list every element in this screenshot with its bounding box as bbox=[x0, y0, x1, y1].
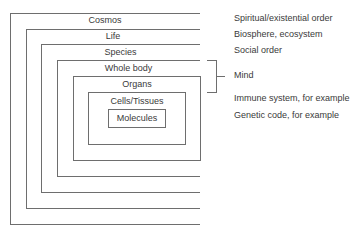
annotation-social: Social order bbox=[234, 45, 282, 56]
annotation-immune: Immune system, for example bbox=[234, 93, 350, 104]
annotation-biosphere: Biosphere, ecosystem bbox=[234, 29, 323, 40]
level-label-whole-body: Whole body bbox=[57, 63, 200, 74]
level-label-life: Life bbox=[26, 31, 200, 42]
level-molecules: Molecules bbox=[108, 109, 166, 128]
annotation-spiritual: Spiritual/existential order bbox=[234, 13, 333, 24]
level-label-molecules: Molecules bbox=[109, 113, 165, 124]
level-label-organs: Organs bbox=[74, 79, 200, 90]
annotation-mind: Mind bbox=[234, 70, 254, 81]
annotation-genetic: Genetic code, for example bbox=[234, 110, 339, 121]
level-label-species: Species bbox=[41, 47, 200, 58]
level-label-cosmos: Cosmos bbox=[10, 15, 200, 26]
level-label-cells-tissues: Cells/Tissues bbox=[89, 96, 185, 107]
